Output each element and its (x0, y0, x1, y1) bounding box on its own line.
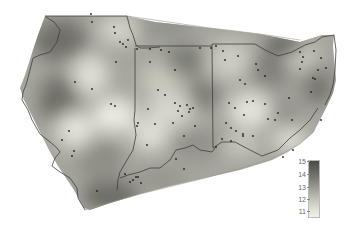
station-point (181, 115, 183, 117)
station-point (132, 179, 134, 181)
station-point (147, 108, 149, 110)
station-point (177, 110, 179, 112)
legend-tick-15: 15 (296, 158, 306, 165)
legend-tick-11: 11 (296, 208, 306, 215)
station-point (314, 78, 316, 80)
station-point (228, 102, 230, 104)
colorbar-legend: 15 14 13 12 11 (296, 156, 336, 222)
station-point (168, 51, 170, 53)
station-point (137, 122, 139, 124)
legend-tick-12: 12 (296, 196, 306, 203)
station-point (174, 69, 176, 71)
station-point (246, 101, 248, 103)
station-point (252, 135, 254, 137)
station-point (264, 75, 266, 77)
station-point (320, 119, 322, 121)
station-point (164, 94, 166, 96)
station-point (199, 47, 201, 49)
station-point (137, 176, 139, 178)
station-point (136, 125, 138, 127)
station-point (114, 105, 116, 107)
station-point (244, 83, 246, 85)
station-point (149, 48, 151, 50)
station-point (252, 100, 254, 102)
station-point (140, 182, 142, 184)
station-point (282, 156, 284, 158)
station-point (110, 103, 112, 105)
station-point (274, 119, 276, 121)
station-point (179, 105, 181, 107)
station-point (230, 140, 232, 142)
colorbar-gradient (308, 160, 320, 218)
station-point (127, 39, 129, 41)
station-point (175, 158, 177, 160)
station-point (301, 61, 303, 63)
station-point (73, 150, 75, 152)
station-point (242, 133, 244, 135)
station-point (90, 13, 92, 15)
station-point (188, 111, 190, 113)
station-point (74, 81, 76, 83)
station-point (189, 108, 191, 110)
station-point (221, 138, 223, 140)
station-point (313, 50, 315, 52)
station-point (172, 122, 174, 124)
station-point (194, 125, 196, 127)
station-point (129, 181, 131, 183)
station-point (302, 56, 304, 58)
station-point (239, 79, 241, 81)
station-point (243, 114, 245, 116)
station-point (234, 107, 236, 109)
station-point (149, 61, 151, 63)
interpolated-surface-map: 15 14 13 12 11 (0, 0, 357, 231)
station-point (186, 104, 188, 106)
station-point (113, 26, 115, 28)
station-point (310, 91, 312, 93)
station-point (71, 155, 73, 157)
station-point (114, 32, 116, 34)
station-point (317, 69, 319, 71)
legend-tick-13: 13 (296, 184, 306, 191)
station-point (225, 122, 227, 124)
station-point (235, 130, 237, 132)
station-point (299, 51, 301, 53)
station-point (61, 139, 63, 141)
station-point (91, 88, 93, 90)
station-point (288, 97, 290, 99)
station-point (215, 45, 217, 47)
station-point (183, 168, 185, 170)
station-point (192, 107, 194, 109)
station-point (124, 173, 126, 175)
station-point (264, 103, 266, 105)
station-point (68, 130, 70, 132)
station-point (224, 59, 226, 61)
station-point (215, 146, 217, 148)
station-point (210, 47, 212, 49)
station-point (292, 149, 294, 151)
station-point (291, 119, 293, 121)
station-point (115, 61, 117, 63)
station-point (154, 123, 156, 125)
station-point (160, 49, 162, 51)
station-point (267, 118, 269, 120)
station-point (277, 112, 279, 114)
station-point (91, 21, 93, 23)
station-point (136, 48, 138, 50)
station-point (312, 77, 314, 79)
station-point (119, 41, 121, 43)
legend-tick-14: 14 (296, 171, 306, 178)
station-point (135, 176, 137, 178)
station-point (222, 50, 224, 52)
station-point (320, 57, 322, 59)
station-point (242, 135, 244, 137)
station-point (174, 102, 176, 104)
station-point (183, 135, 185, 137)
station-point (230, 127, 232, 129)
station-point (125, 46, 127, 48)
station-point (255, 63, 257, 65)
station-point (96, 190, 98, 192)
station-point (299, 68, 301, 70)
station-point (237, 55, 239, 57)
station-point (257, 69, 259, 71)
station-point (157, 89, 159, 91)
